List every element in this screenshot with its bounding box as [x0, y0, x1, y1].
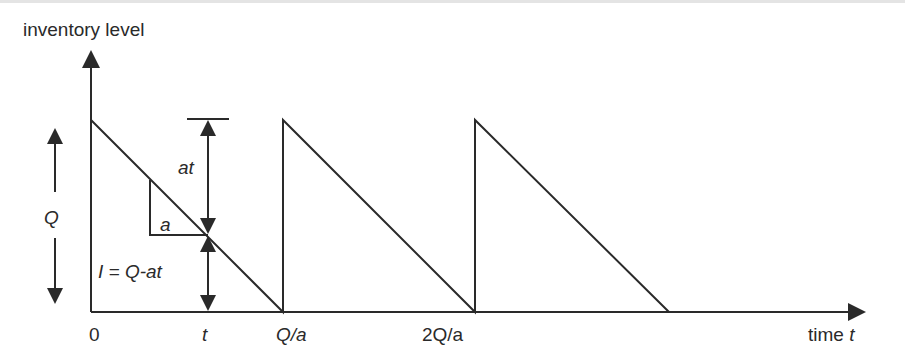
y-axis-label: inventory level	[23, 20, 144, 39]
tick-label-two-q-over-a: 2Q/a	[422, 325, 463, 344]
i-arrow-down-icon	[200, 295, 216, 311]
x-axis-label: time t	[808, 325, 854, 344]
tick-label-zero: 0	[89, 325, 100, 344]
inventory-sawtooth-diagram	[0, 0, 905, 362]
y-axis-arrowhead-icon	[82, 50, 100, 68]
q-arrow-up-icon	[47, 128, 63, 144]
inventory-sawtooth-line	[91, 120, 669, 312]
tick-label-t: t	[202, 325, 207, 344]
tick-label-q-over-a: Q/a	[276, 325, 307, 344]
at-label: at	[178, 158, 194, 177]
at-arrow-up-icon	[200, 120, 216, 136]
q-arrow-down-icon	[47, 288, 63, 304]
slope-label: a	[160, 215, 171, 234]
x-axis-label-var: t	[849, 324, 854, 345]
x-axis-arrowhead-icon	[848, 303, 866, 321]
q-height-label: Q	[44, 208, 59, 227]
inventory-formula-label: I = Q-at	[98, 262, 162, 281]
x-axis-label-text: time	[808, 324, 849, 345]
